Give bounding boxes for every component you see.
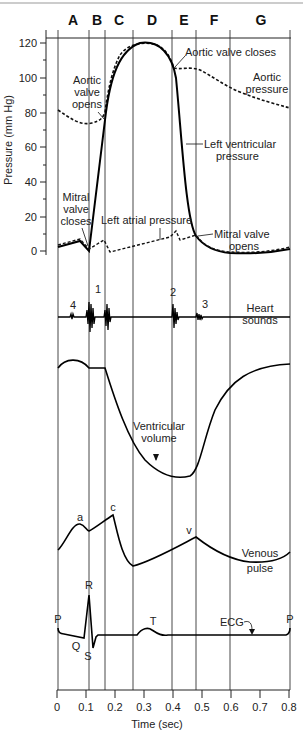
venous-v-wave: v <box>186 524 192 536</box>
ecg-p-wave-end: P <box>286 613 293 625</box>
mitral-opens-label-2: opens <box>229 240 259 252</box>
x-axis-label: Time (sec) <box>131 718 183 730</box>
heart-sounds-trace: 4 1 2 3 Heart sounds <box>58 283 290 332</box>
venous-pulse-label-1: Venous <box>242 547 279 559</box>
y-tick-40: 40 <box>25 176 37 188</box>
arrow-down-icon <box>153 454 159 461</box>
aortic-valve-opens-label-2: valve <box>74 86 100 98</box>
lv-pressure-label-1: Left ventricular <box>204 138 276 150</box>
ecg-q-wave: Q <box>72 640 81 652</box>
heart-sounds-label-1: Heart <box>247 302 274 314</box>
x-tick-0.1: 0.1 <box>78 701 93 713</box>
aortic-pressure-label-2: pressure <box>246 83 289 95</box>
phase-a: A <box>68 12 78 28</box>
ecg-r-wave: R <box>85 579 93 591</box>
x-tick-0.4: 0.4 <box>165 701 180 713</box>
x-tick-0.8: 0.8 <box>281 701 296 713</box>
phase-c: C <box>114 12 124 28</box>
ecg-s-wave: S <box>84 650 91 662</box>
lv-pressure-label-2: pressure <box>216 150 259 162</box>
ventricular-volume-label-2: volume <box>141 432 176 444</box>
aortic-valve-opens-label-3: opens <box>72 98 102 110</box>
phase-f: F <box>210 12 219 28</box>
venous-c-wave: c <box>110 501 116 513</box>
wiggers-diagram: A B C D E F G 120 100 80 60 <box>0 0 303 739</box>
ecg-label: ECG <box>220 616 244 628</box>
mitral-opens-label-1: Mitral valve <box>214 228 270 240</box>
mitral-closes-label-3: closes <box>60 215 92 227</box>
y-tick-120: 120 <box>19 37 37 49</box>
left-atrial-pressure-label: Left atrial pressure <box>101 214 192 226</box>
phase-boundary-lines <box>58 30 290 690</box>
ventricular-volume-label-1: Ventricular <box>133 420 185 432</box>
ecg-p-wave-start: P <box>54 613 61 625</box>
heart-sounds-label-2: sounds <box>242 314 278 326</box>
y-tick-80: 80 <box>25 107 37 119</box>
mitral-opens-pointer <box>198 234 213 236</box>
arrow-down-icon <box>249 629 255 635</box>
x-tick-0.7: 0.7 <box>252 701 267 713</box>
aortic-pressure-label-1: Aortic <box>253 71 282 83</box>
y-tick-0: 0 <box>31 245 37 257</box>
mitral-closes-label-2: valve <box>63 203 89 215</box>
phase-b: B <box>92 12 102 28</box>
heart-sound-2: 2 <box>170 286 176 298</box>
x-tick-0.5: 0.5 <box>194 701 209 713</box>
aortic-valve-closes-label: Aortic valve closes <box>185 46 277 58</box>
phase-e: E <box>179 12 188 28</box>
y-tick-100: 100 <box>19 72 37 84</box>
phase-d: D <box>147 12 157 28</box>
mitral-closes-label-1: Mitral <box>63 191 90 203</box>
venous-a-wave: a <box>77 511 84 523</box>
heart-sound-3: 3 <box>202 298 208 310</box>
y-tick-20: 20 <box>25 211 37 223</box>
venous-pulse-trace: a c v Venous pulse <box>58 501 290 574</box>
x-tick-0: 0 <box>54 701 60 713</box>
x-tick-0.2: 0.2 <box>107 701 122 713</box>
heart-sound-1: 1 <box>95 283 101 295</box>
phase-g: G <box>256 12 267 28</box>
aortic-valve-opens-label-1: Aortic <box>73 74 102 86</box>
ecg-t-wave: T <box>150 615 157 627</box>
x-tick-0.6: 0.6 <box>223 701 238 713</box>
ecg-trace: P Q R S T P ECG <box>54 579 293 662</box>
x-axis: 0 0.1 0.2 0.3 0.4 0.5 0.6 0.7 0.8 Time (… <box>54 690 297 730</box>
ventricular-volume-trace: Ventricular volume <box>58 360 290 477</box>
heart-sound-4: 4 <box>70 299 76 311</box>
y-tick-60: 60 <box>25 141 37 153</box>
y-axis: 120 100 80 60 40 20 0 Pressure (mm Hg) <box>2 30 46 257</box>
aortic-valve-closes-pointer <box>175 56 185 67</box>
y-axis-label: Pressure (mm Hg) <box>2 95 14 185</box>
x-tick-0.3: 0.3 <box>136 701 151 713</box>
phase-labels: A B C D E F G <box>68 12 267 28</box>
venous-pulse-label-2: pulse <box>247 562 273 574</box>
